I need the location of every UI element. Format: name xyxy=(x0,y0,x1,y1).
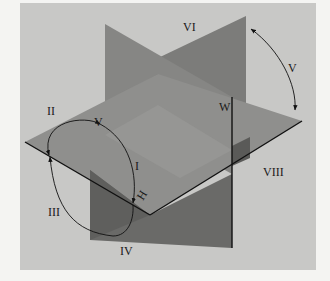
octant-label-vi: VI xyxy=(183,20,196,34)
rotation-label-v-left: V xyxy=(94,115,103,129)
rotation-label-v-right: V xyxy=(288,61,297,75)
octant-label-i: I xyxy=(135,159,139,173)
octant-label-iii: III xyxy=(48,205,60,219)
plane-label-w: W xyxy=(219,100,231,114)
octant-label-viii: VIII xyxy=(263,165,284,179)
octant-diagram: VI V W II V I VIII III IV H xyxy=(0,0,330,281)
octant-label-iv: IV xyxy=(120,244,133,258)
octant-label-ii: II xyxy=(47,104,55,118)
